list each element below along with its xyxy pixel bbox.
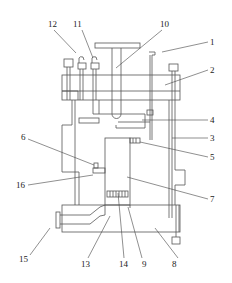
label-6: 6 (21, 132, 26, 142)
label-15: 15 (19, 254, 29, 264)
label-5: 5 (210, 152, 215, 162)
nozzle-valves-11 (78, 57, 99, 100)
mechanical-diagram: 1 2 3 4 5 6 7 8 9 10 11 12 13 14 15 16 (0, 0, 232, 283)
part-labels: 1 2 3 4 5 6 7 8 9 10 11 12 13 14 15 16 (16, 19, 215, 269)
grille-14 (107, 191, 128, 197)
left-valve-12 (62, 59, 78, 100)
probe-1 (147, 52, 155, 140)
label-14: 14 (119, 259, 129, 269)
right-frame-3 (169, 100, 185, 218)
label-8: 8 (172, 259, 177, 269)
label-10: 10 (160, 19, 170, 29)
label-1: 1 (210, 37, 215, 47)
label-9: 9 (142, 259, 147, 269)
label-3: 3 (210, 133, 215, 143)
label-7: 7 (210, 194, 215, 204)
left-frame (62, 100, 79, 205)
center-column-7 (105, 138, 130, 205)
leader-lines (28, 30, 208, 258)
label-13: 13 (81, 259, 91, 269)
handle-assembly (95, 43, 140, 119)
label-12: 12 (48, 19, 57, 29)
label-16: 16 (16, 180, 26, 190)
fitting-5 (130, 138, 140, 143)
lower-base-8 (56, 205, 180, 244)
label-11: 11 (73, 19, 82, 29)
part-6-16 (93, 163, 105, 173)
label-2: 2 (210, 65, 215, 75)
label-4: 4 (210, 115, 215, 125)
inner-chamber-4 (79, 100, 150, 128)
